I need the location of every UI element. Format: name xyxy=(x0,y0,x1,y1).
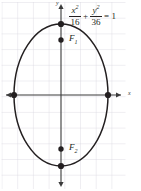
focus-1-point xyxy=(58,37,63,42)
focus-2-label: F2 xyxy=(69,142,78,152)
focus-2-subscript: 2 xyxy=(75,148,78,154)
x-axis-label: x xyxy=(128,90,131,96)
term-1-denominator: 16 xyxy=(70,17,81,27)
co-vertex-right-point xyxy=(105,92,111,98)
equation-term-1: x2 16 xyxy=(69,6,81,27)
vertex-top-point xyxy=(58,21,64,27)
equation-plus-operator: + xyxy=(83,11,88,21)
focus-1-label: F1 xyxy=(69,33,78,43)
focus-1-subscript: 1 xyxy=(75,39,78,45)
equation-term-2: y2 36 xyxy=(90,6,102,27)
focus-2-point xyxy=(58,146,63,151)
co-vertex-left-point xyxy=(11,92,17,98)
ellipse-equation: x2 16 + y2 36 = 1 xyxy=(68,1,141,31)
equation-right-hand-side: = 1 xyxy=(104,11,116,21)
ellipse-figure: x2 16 + y2 36 = 1 x y F1 F2 xyxy=(0,0,141,191)
vertex-bottom-point xyxy=(58,163,64,169)
term-2-denominator: 36 xyxy=(91,17,102,27)
term-2-numerator: y2 xyxy=(92,6,101,16)
y-axis-label: y xyxy=(56,0,59,6)
term-1-numerator: x2 xyxy=(71,6,80,16)
